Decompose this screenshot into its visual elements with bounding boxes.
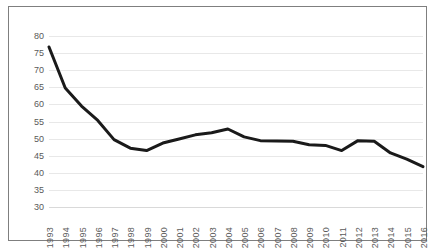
x-tick-label-2010: 2010 [321,227,331,248]
x-axis-tick-labels: 1993199419951996199719981999200020012002… [49,210,423,248]
x-tick-label-1993: 1993 [45,227,55,248]
plot-area: 3035404550556065707580 [49,36,423,207]
x-tick-label-2016: 2016 [419,227,429,248]
y-tick-label-45: 45 [10,151,44,161]
x-tick-label-2013: 2013 [370,227,380,248]
x-tick-label-1995: 1995 [78,227,88,248]
y-tick-label-75: 75 [10,48,44,58]
x-tick-label-2006: 2006 [256,227,266,248]
x-tick-label-1997: 1997 [110,227,120,248]
x-tick-label-2009: 2009 [305,227,315,248]
y-tick-label-65: 65 [10,82,44,92]
y-tick-label-60: 60 [10,99,44,109]
x-tick-label-2003: 2003 [208,227,218,248]
y-tick-label-80: 80 [10,31,44,41]
y-tick-label-50: 50 [10,134,44,144]
x-tick-label-2008: 2008 [289,227,299,248]
chart-frame: 3035404550556065707580 19931994199519961… [8,6,427,241]
x-axis-line [49,207,423,208]
x-tick-label-1999: 1999 [143,227,153,248]
y-tick-label-40: 40 [10,168,44,178]
x-tick-label-2005: 2005 [240,227,250,248]
y-tick-label-55: 55 [10,117,44,127]
series-line-chart [49,36,423,207]
y-tick-label-35: 35 [10,185,44,195]
x-tick-label-2002: 2002 [191,227,201,248]
x-tick-label-2000: 2000 [159,227,169,248]
x-tick-label-2012: 2012 [354,227,364,248]
x-tick-label-1994: 1994 [61,227,71,248]
x-tick-label-2007: 2007 [273,227,283,248]
y-tick-label-70: 70 [10,65,44,75]
x-tick-label-2014: 2014 [386,227,396,248]
y-tick-label-30: 30 [10,202,44,212]
x-tick-label-1998: 1998 [126,227,136,248]
x-tick-label-2011: 2011 [338,227,348,248]
x-tick-label-2015: 2015 [403,227,413,248]
series-line-path [49,47,423,167]
x-tick-label-1996: 1996 [94,227,104,248]
x-tick-label-2001: 2001 [175,227,185,248]
x-tick-label-2004: 2004 [224,227,234,248]
